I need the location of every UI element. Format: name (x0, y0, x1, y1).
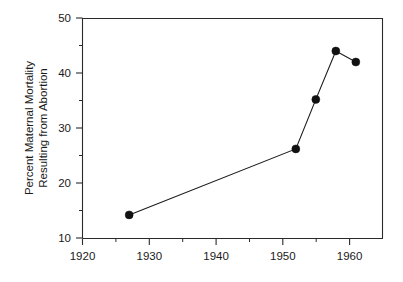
y-axis-major-ticks (76, 18, 83, 238)
data-point (292, 145, 300, 153)
y-tick-label-30: 30 (58, 122, 71, 134)
data-point (125, 211, 133, 219)
y-tick-label-50: 50 (58, 12, 71, 24)
x-tick-label-1930: 1930 (137, 250, 163, 262)
data-series (125, 47, 360, 219)
y-axis-title: Percent Maternal Mortality Resulting fro… (23, 61, 49, 195)
line-chart: 10 20 30 40 50 1920 1930 1940 1950 (0, 0, 403, 282)
series-line (129, 51, 356, 215)
y-tick-label-10: 10 (58, 232, 71, 244)
chart-container: 10 20 30 40 50 1920 1930 1940 1950 (0, 0, 403, 282)
data-point (312, 95, 320, 103)
data-point (332, 47, 340, 55)
y-axis-title-line-1: Percent Maternal Mortality (23, 61, 35, 195)
y-axis-tick-labels: 10 20 30 40 50 (58, 12, 71, 244)
x-axis-tick-labels: 1920 1930 1940 1950 1960 (70, 250, 363, 262)
x-tick-label-1920: 1920 (70, 250, 96, 262)
x-tick-label-1940: 1940 (203, 250, 229, 262)
x-tick-label-1950: 1950 (270, 250, 296, 262)
y-tick-label-40: 40 (58, 67, 71, 79)
x-tick-label-1960: 1960 (337, 250, 363, 262)
data-point (352, 58, 360, 66)
x-axis-major-ticks (83, 239, 350, 246)
y-axis-title-line-2: Resulting from Abortion (37, 68, 49, 188)
series-markers (125, 47, 360, 219)
y-tick-label-20: 20 (58, 177, 71, 189)
